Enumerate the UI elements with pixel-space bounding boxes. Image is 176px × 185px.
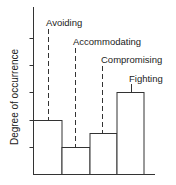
bar-fighting: [117, 93, 144, 175]
bar-chart: AvoidingAccommodatingCompromisingFightin…: [0, 0, 176, 185]
label-compromising: Compromising: [101, 54, 162, 65]
y-axis-ticks: [30, 39, 34, 148]
y-axis-label: Degree of occurrence: [9, 48, 20, 145]
bar-compromising: [90, 134, 117, 175]
bar-avoiding: [34, 121, 63, 175]
label-accommodating: Accommodating: [73, 36, 141, 47]
label-avoiding: Avoiding: [46, 17, 82, 28]
bar-accommodating: [62, 148, 90, 175]
bars-group: [34, 93, 145, 175]
label-fighting: Fighting: [129, 73, 163, 84]
category-labels: AvoidingAccommodatingCompromisingFightin…: [46, 17, 163, 84]
